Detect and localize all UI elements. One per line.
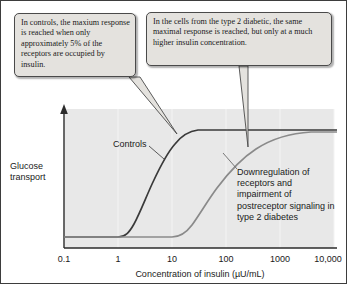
x-tick-4: 1000 (270, 254, 290, 264)
callout-diabetic-text: In the cells from the type 2 diabetic, t… (153, 17, 326, 48)
figure-container: Glucose transport Controls Downregulatio… (0, 0, 347, 284)
x-tick-1: 1 (115, 254, 120, 264)
x-axis-label: Concentration of insulin (µU/mL) (64, 269, 336, 279)
series-label-controls: Controls (113, 139, 147, 149)
x-tick-5: 10,000 (314, 254, 342, 264)
x-axis-ticks: 0.1 1 10 100 1000 10,000 (1, 254, 348, 266)
callout-controls-text: In controls, the maxium response is reac… (21, 18, 130, 70)
callout-controls: In controls, the maxium response is reac… (14, 13, 136, 77)
in-plot-annotation: Downregulation of receptors and impairme… (237, 167, 337, 223)
callout-diabetic: In the cells from the type 2 diabetic, t… (146, 12, 332, 66)
x-tick-0: 0.1 (58, 254, 71, 264)
y-axis-label: Glucose transport (10, 161, 66, 183)
x-tick-2: 10 (167, 254, 177, 264)
x-tick-3: 100 (218, 254, 233, 264)
